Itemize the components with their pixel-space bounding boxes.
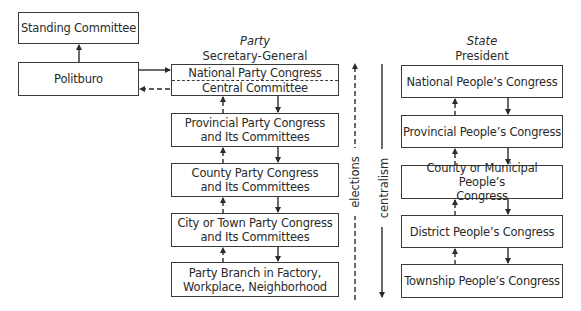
national-party-congress-label: National Party Congress [172,65,338,80]
state-title: State [401,34,563,49]
box-line-1: County Party Congress [192,166,319,180]
party-branch-box: Party Branch in Factory, Workplace, Neig… [171,262,339,297]
provincial-party-congress-box: Provincial Party Congress and Its Commit… [171,113,339,147]
box-line-2: Congress [456,189,508,203]
elections-label: elections [348,148,362,216]
district-peoples-congress-box: District People’s Congress [401,215,563,248]
party-subtitle: Secretary-General [171,49,339,64]
national-party-congress-box: National Party Congress Central Committe… [171,64,339,96]
box-line-1: Township People’s Congress [404,274,560,288]
box-line-1: County or Municipal People’s [402,161,562,189]
state-subtitle: President [401,49,563,64]
politburo-box: Politburo [18,62,139,96]
box-line-2: and Its Committees [200,130,309,144]
party-title: Party [171,34,339,49]
box-line-2: and Its Committees [200,230,309,244]
standing-committee-label: Standing Committee [21,21,136,35]
township-peoples-congress-box: Township People’s Congress [401,264,563,298]
dashed-divider [172,80,338,81]
box-line-1: District People’s Congress [410,225,554,239]
central-committee-label: Central Committee [172,80,338,95]
provincial-peoples-congress-box: Provincial People’s Congress [401,115,563,148]
county-municipal-peoples-congress-box: County or Municipal People’s Congress [401,165,563,199]
county-party-congress-box: County Party Congress and Its Committees [171,163,339,197]
box-line-1: Provincial People’s Congress [403,125,561,139]
centralism-label: centralism [377,149,391,227]
box-line-1: City or Town Party Congress [177,216,332,230]
box-line-1: Party Branch in Factory, [189,266,321,280]
box-line-2: and Its Committees [200,180,309,194]
box-line-1: Provincial Party Congress [185,116,325,130]
box-line-2: Workplace, Neighborhood [183,280,327,294]
city-town-party-congress-box: City or Town Party Congress and Its Comm… [171,213,339,247]
party-header: Party Secretary-General [171,34,339,64]
standing-committee-box: Standing Committee [18,12,139,44]
state-header: State President [401,34,563,64]
national-peoples-congress-box: National People’s Congress [401,65,563,98]
politburo-label: Politburo [54,72,103,86]
box-line-1: National People’s Congress [406,75,557,89]
